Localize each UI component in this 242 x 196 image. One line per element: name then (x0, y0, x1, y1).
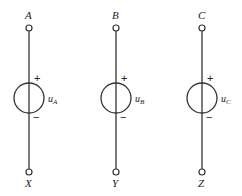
voltage-label-a: uA (48, 93, 58, 106)
terminal-label-y: Y (112, 177, 120, 189)
plus-sign-b: + (121, 72, 127, 84)
source-b: B + − uB Y (101, 9, 145, 189)
voltage-label-c: uC (221, 93, 231, 106)
plus-sign-a: + (34, 72, 40, 84)
terminal-label-z: Z (198, 177, 205, 189)
terminal-label-b: B (112, 9, 119, 21)
plus-sign-c: + (207, 72, 213, 84)
circuit-svg: A + − uA X B + − uB Y C + (0, 0, 242, 196)
terminal-label-x: X (24, 177, 33, 189)
terminal-y (113, 169, 119, 175)
terminal-a (26, 25, 32, 31)
terminal-label-a: A (24, 9, 32, 21)
minus-sign-b: − (120, 111, 126, 123)
terminal-label-c: C (198, 9, 206, 21)
terminal-c (199, 25, 205, 31)
terminal-x (26, 169, 32, 175)
source-a: A + − uA X (14, 9, 58, 189)
voltage-label-b: uB (135, 93, 145, 106)
minus-sign-c: − (206, 111, 212, 123)
terminal-z (199, 169, 205, 175)
source-c: C + − uC Z (187, 9, 231, 189)
minus-sign-a: − (33, 111, 39, 123)
circuit-diagram: A + − uA X B + − uB Y C + (0, 0, 242, 196)
terminal-b (113, 25, 119, 31)
